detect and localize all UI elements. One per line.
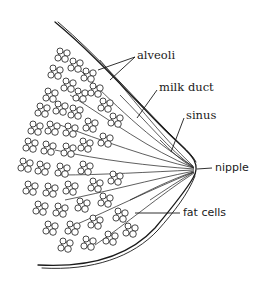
label-nipple: nipple (215, 162, 249, 173)
breast-anatomy-diagram (0, 0, 263, 289)
label-sinus: sinus (186, 110, 216, 122)
label-alveoli: alveoli (137, 50, 175, 62)
label-fat-cells: fat cells (183, 207, 226, 218)
alveoli-clusters (18, 48, 138, 252)
label-milk-duct: milk duct (159, 82, 214, 94)
